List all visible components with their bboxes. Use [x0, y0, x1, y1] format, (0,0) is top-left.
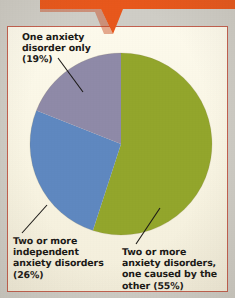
label-two-or-more-one-caused: Two or more anxiety disorders, one cause…: [122, 247, 226, 292]
label-two-or-more-independent: Two or more independent anxiety disorder…: [13, 236, 109, 281]
leader-line-two-independent: [22, 205, 47, 233]
pie-chart-figure: One anxiety disorder only (19%) Two or m…: [0, 0, 235, 298]
label-one-anxiety-disorder-only: One anxiety disorder only (19%): [22, 32, 114, 66]
